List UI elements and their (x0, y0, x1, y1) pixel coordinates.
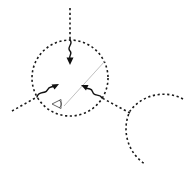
diagram-canvas (0, 0, 189, 171)
top-wavy-arrow (67, 40, 74, 65)
dividing-line (64, 61, 105, 106)
arrowhead-icon (67, 58, 74, 66)
left-incoming-dashed-path (12, 97, 37, 111)
right-incoming-dashed-path (102, 98, 130, 113)
left-wavy-arrow (37, 84, 59, 97)
arrowhead-icon (81, 85, 89, 91)
secondary-region-arc (126, 94, 183, 164)
right-wavy-arrow (81, 85, 102, 98)
observer-eye-icon (52, 100, 62, 109)
